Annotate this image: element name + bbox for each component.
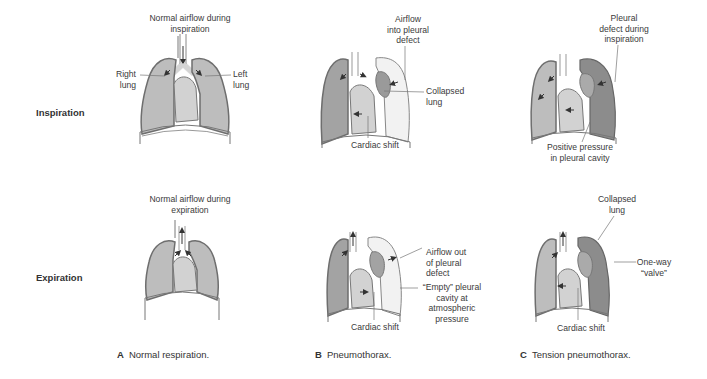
caption-a: ANormal respiration. [117,349,209,360]
caption-b: BPneumothorax. [315,349,391,360]
caption-c: CTension pneumothorax. [520,349,631,360]
caption-text-a: Normal respiration. [129,349,209,360]
caption-text-c: Tension pneumothorax. [532,349,631,360]
leader-lines-c-insp [0,0,707,190]
caption-text-b: Pneumothorax. [327,349,391,360]
caption-letter-a: A [117,349,124,360]
caption-letter-b: B [315,349,322,360]
caption-letter-c: C [520,349,527,360]
